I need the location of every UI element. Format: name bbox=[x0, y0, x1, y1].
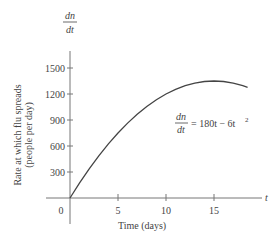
equation-exponent: 2 bbox=[245, 116, 249, 124]
x-axis-label: Time (days) bbox=[118, 220, 166, 232]
y-axis-label-line2: (people per day) bbox=[23, 102, 35, 168]
y-tick-label: 300 bbox=[50, 167, 65, 178]
x-tick-label: 0 bbox=[59, 205, 64, 216]
y-tick-label: 600 bbox=[50, 141, 65, 152]
y-axis-symbol-num: dn bbox=[65, 10, 75, 21]
y-tick-label: 900 bbox=[50, 115, 65, 126]
equation-lhs-den: dt bbox=[177, 124, 185, 135]
y-axis-label-line1: Rate at which flu spreads bbox=[12, 84, 23, 185]
x-tick-label: 15 bbox=[209, 205, 219, 216]
equation-lhs-num: dn bbox=[176, 111, 186, 122]
y-axis-symbol-den: dt bbox=[66, 24, 74, 35]
x-axis-symbol: t bbox=[265, 192, 268, 203]
y-tick-label: 1500 bbox=[45, 63, 65, 74]
series-line bbox=[70, 81, 248, 198]
chart: 05101530060090012001500 dn dt t Time (da… bbox=[0, 0, 280, 242]
y-tick-label: 1200 bbox=[45, 89, 65, 100]
x-tick-label: 5 bbox=[116, 205, 121, 216]
x-tick-label: 10 bbox=[161, 205, 171, 216]
equation-rhs: = 180t − 6t bbox=[191, 118, 236, 129]
